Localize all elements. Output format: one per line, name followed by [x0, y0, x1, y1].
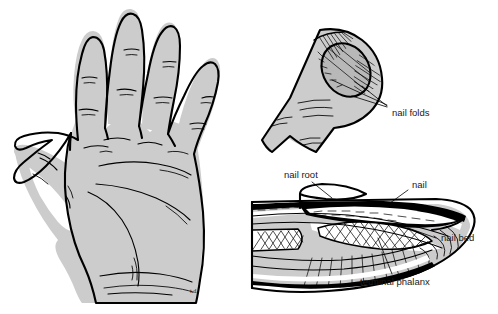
figure-canvas: t.d.: [0, 0, 498, 314]
label-nail-root: nail root: [284, 169, 318, 180]
artist-signature: t.d.: [190, 288, 198, 294]
label-nail: nail: [412, 179, 427, 190]
panel-palm-view: t.d.: [14, 9, 220, 303]
label-terminal-phalanx: terminal phalanx: [360, 276, 430, 287]
label-nail-bed: nail bed: [441, 232, 474, 243]
finger-middle: [107, 9, 143, 126]
panel-finger-section: nail root nail nail bed terminal phalanx: [250, 169, 475, 292]
nail-root-outline: [300, 184, 366, 199]
label-nail-folds: nail folds: [392, 107, 430, 118]
anatomy-figure: t.d.: [0, 0, 498, 314]
panel-fingertip-view: nail folds: [262, 29, 430, 152]
